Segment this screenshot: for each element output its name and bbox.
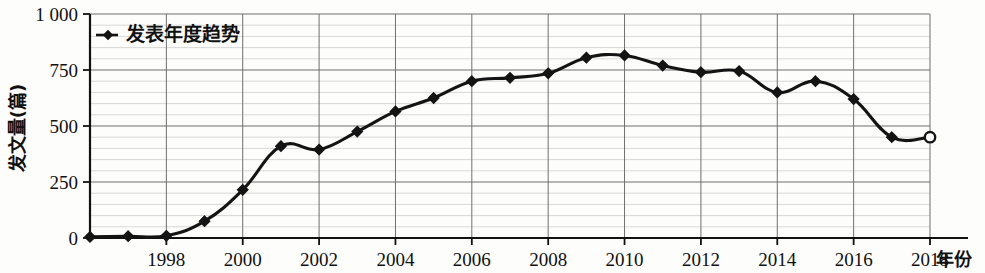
y-axis-tick-label: 750: [50, 60, 79, 81]
data-point-marker: [123, 231, 133, 241]
y-axis-tick-label: 0: [69, 228, 79, 249]
data-point-marker: [314, 145, 324, 155]
x-axis-tick-label: 1998: [147, 249, 185, 270]
y-axis-title: 发文量(篇): [7, 84, 28, 173]
data-point-marker: [810, 76, 820, 86]
data-point-marker: [772, 87, 782, 97]
chart-legend: 发表年度趋势: [96, 23, 240, 45]
publication-trend-line-chart: 02505007501 000 199820002002200420062008…: [0, 0, 985, 273]
data-point-marker: [734, 66, 744, 76]
x-axis-title: 年份: [936, 249, 973, 270]
chart-figure: 02505007501 000 199820002002200420062008…: [0, 0, 985, 273]
data-point-marker: [161, 231, 171, 241]
x-axis-tick-label: 2004: [376, 249, 415, 270]
y-axis-tick-label: 500: [50, 116, 79, 137]
data-point-marker: [696, 67, 706, 77]
data-point-marker: [581, 53, 591, 63]
series-markers: [85, 50, 935, 241]
y-axis-tick-label: 1 000: [35, 4, 78, 25]
data-point-marker: [658, 61, 668, 71]
x-axis-tick-label: 2000: [224, 249, 262, 270]
x-axis-tick-label: 2014: [758, 249, 797, 270]
legend-label: 发表年度趋势: [125, 23, 240, 45]
data-series-group: [85, 50, 935, 241]
data-point-marker-open: [925, 132, 935, 142]
data-point-marker: [467, 76, 477, 86]
x-axis-tick-label: 2012: [682, 249, 720, 270]
x-axis-tick-label: 2002: [300, 249, 338, 270]
y-axis-tick-labels: 02505007501 000: [35, 4, 78, 249]
legend-marker-icon: [103, 30, 113, 40]
y-axis-tick-label: 250: [50, 172, 79, 193]
x-axis-tick-labels: 1998200020022004200620082010201220142016…: [147, 249, 949, 270]
x-axis-tick-label: 2008: [529, 249, 567, 270]
x-axis-tick-label: 2010: [606, 249, 644, 270]
x-axis-tick-label: 2006: [453, 249, 491, 270]
data-point-marker: [429, 93, 439, 103]
x-axis-tick-label: 2016: [835, 249, 873, 270]
data-point-marker: [85, 232, 95, 242]
